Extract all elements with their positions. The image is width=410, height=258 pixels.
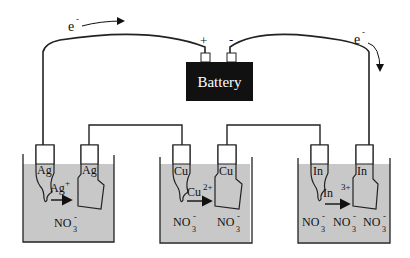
cell-copper: Cu Cu Cu 2+ NO 3 - NO 3 - — [160, 145, 252, 243]
arrow-icon — [82, 21, 123, 26]
svg-text:3: 3 — [382, 225, 386, 234]
negative-sign: - — [229, 32, 233, 47]
svg-text:3: 3 — [236, 225, 240, 234]
svg-text:3: 3 — [192, 225, 196, 234]
electron-label: e — [354, 32, 360, 47]
anode-label: In — [313, 164, 323, 178]
svg-text:3: 3 — [321, 225, 325, 234]
anode-label: Ag — [37, 163, 52, 177]
cell-indium: In In In 3+ NO 3 - NO 3 - NO 3 - — [298, 145, 390, 243]
electron-charge: - — [76, 14, 79, 24]
ion-label: Ag — [50, 181, 65, 195]
electron-flow-left: e - — [68, 14, 123, 34]
anion-label: NO — [217, 215, 235, 229]
negative-terminal — [227, 53, 236, 62]
electron-label: e — [68, 19, 74, 34]
svg-text:-: - — [353, 211, 356, 221]
anion-label: NO — [333, 215, 351, 229]
svg-text:3: 3 — [352, 225, 356, 234]
ion-label: Cu — [187, 185, 201, 199]
electrolysis-diagram: e - e - + - Battery Ag Ag Ag + NO 3 - — [0, 0, 410, 258]
positive-terminal — [201, 53, 210, 62]
positive-sign: + — [200, 33, 207, 48]
wire-cell1-cell2 — [89, 125, 182, 145]
cathode-label: In — [357, 164, 367, 178]
anode-label: Cu — [174, 164, 188, 178]
cathode-label: Cu — [219, 164, 233, 178]
svg-text:-: - — [74, 212, 77, 222]
battery-label: Battery — [197, 74, 242, 90]
svg-text:-: - — [383, 211, 386, 221]
ion-charge: 2+ — [203, 182, 213, 192]
svg-text:-: - — [237, 211, 240, 221]
ion-label: In — [323, 186, 333, 200]
anion-label: NO — [173, 215, 191, 229]
anion-label: NO — [363, 215, 381, 229]
ion-charge: + — [65, 178, 70, 188]
anion-label: NO — [302, 215, 320, 229]
anion-label: NO — [54, 216, 72, 230]
ion-charge: 3+ — [341, 182, 351, 192]
battery: + - Battery — [186, 32, 253, 101]
cell-silver: Ag Ag Ag + NO 3 - — [23, 145, 114, 242]
svg-text:-: - — [322, 211, 325, 221]
electron-charge: - — [362, 27, 365, 37]
cathode-label: Ag — [82, 163, 97, 177]
svg-text:-: - — [193, 211, 196, 221]
wire-cell2-cell3 — [227, 125, 320, 145]
svg-text:3: 3 — [73, 225, 77, 234]
